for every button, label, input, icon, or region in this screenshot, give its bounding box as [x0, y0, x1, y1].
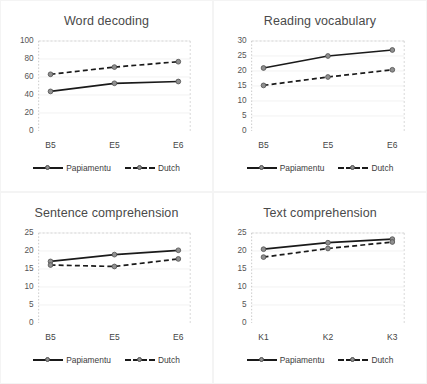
y-axis-tick-label: 20	[238, 246, 248, 255]
y-axis-tick-label: 10	[25, 282, 35, 291]
x-axis-tick-label: K2	[323, 332, 334, 342]
y-axis-tick-label: 20	[25, 108, 35, 117]
data-point-marker	[176, 248, 181, 253]
data-point-marker	[176, 79, 181, 84]
chart-panel-reading-vocabulary: Reading vocabulary 051015202530B5E5E6 Pa…	[213, 0, 427, 192]
data-point-marker	[261, 83, 266, 88]
chart-title: Reading vocabulary	[214, 14, 426, 28]
data-point-marker	[261, 247, 266, 252]
data-point-marker	[112, 81, 117, 86]
y-axis-tick-label: 5	[242, 300, 247, 309]
y-axis-tick-label: 60	[25, 72, 35, 81]
legend-line-dashed-icon	[125, 356, 155, 365]
y-axis-tick-label: 80	[25, 54, 35, 63]
data-point-marker	[48, 263, 53, 268]
y-axis-tick-label: 20	[238, 66, 248, 75]
legend-line-dashed-icon	[338, 356, 368, 365]
plot-area: 020406080100B5E5E6	[1, 35, 212, 157]
data-point-marker	[176, 257, 181, 262]
legend-item-dutch: Dutch	[338, 163, 393, 173]
x-axis-tick-label: B5	[258, 140, 269, 150]
legend-label-dutch: Dutch	[158, 163, 180, 173]
x-axis-tick-label: E6	[173, 332, 184, 342]
plot-area: 0510152025K1K2K3	[214, 227, 426, 349]
legend-label-papiamentu: Papiamentu	[66, 163, 111, 173]
legend-label-papiamentu: Papiamentu	[280, 355, 325, 365]
data-point-marker	[112, 264, 117, 269]
legend-line-solid-icon	[247, 356, 277, 365]
legend-line-dashed-icon	[338, 164, 368, 173]
y-axis-tick-label: 15	[238, 81, 248, 90]
y-axis-tick-label: 20	[25, 246, 35, 255]
plot-svg: 051015202530B5E5E6	[214, 35, 426, 157]
y-axis-tick-label: 0	[29, 318, 34, 327]
plot-svg: 0510152025K1K2K3	[214, 227, 426, 349]
legend-label-dutch: Dutch	[158, 355, 180, 365]
legend-line-solid-icon	[247, 164, 277, 173]
y-axis-tick-label: 25	[25, 228, 35, 237]
legend-item-dutch: Dutch	[125, 163, 180, 173]
x-axis-tick-label: K3	[387, 332, 398, 342]
x-axis-tick-label: E6	[173, 140, 184, 150]
chart-legend: Papiamentu Dutch	[1, 163, 212, 173]
legend-item-dutch: Dutch	[338, 355, 393, 365]
data-point-marker	[112, 252, 117, 257]
data-point-marker	[326, 54, 331, 59]
data-point-marker	[326, 246, 331, 251]
y-axis-tick-label: 25	[238, 228, 248, 237]
y-axis-tick-label: 0	[29, 126, 34, 135]
x-axis-tick-label: B5	[45, 332, 56, 342]
legend-item-papiamentu: Papiamentu	[33, 163, 111, 173]
y-axis-tick-label: 30	[238, 36, 248, 45]
legend-line-dashed-icon	[125, 164, 155, 173]
y-axis-tick-label: 10	[238, 96, 248, 105]
y-axis-tick-label: 40	[25, 90, 35, 99]
y-axis-tick-label: 10	[238, 282, 248, 291]
legend-label-dutch: Dutch	[371, 163, 393, 173]
data-point-marker	[48, 72, 53, 77]
legend-item-papiamentu: Papiamentu	[33, 355, 111, 365]
y-axis-tick-label: 100	[20, 36, 34, 45]
y-axis-tick-label: 5	[242, 111, 247, 120]
chart-title: Sentence comprehension	[1, 206, 212, 220]
plot-area: 051015202530B5E5E6	[214, 35, 426, 157]
y-axis-tick-label: 15	[25, 264, 35, 273]
legend-line-solid-icon	[33, 164, 63, 173]
chart-panel-sentence-comprehension: Sentence comprehension 0510152025B5E5E6 …	[0, 192, 213, 384]
data-point-marker	[176, 59, 181, 64]
legend-item-papiamentu: Papiamentu	[247, 355, 325, 365]
legend-item-papiamentu: Papiamentu	[247, 163, 325, 173]
legend-item-dutch: Dutch	[125, 355, 180, 365]
x-axis-tick-label: K1	[258, 332, 269, 342]
legend-label-papiamentu: Papiamentu	[66, 355, 111, 365]
legend-line-solid-icon	[33, 356, 63, 365]
data-point-marker	[390, 240, 395, 245]
plot-svg: 020406080100B5E5E6	[1, 35, 212, 157]
data-point-marker	[261, 255, 266, 260]
chart-legend: Papiamentu Dutch	[1, 355, 212, 365]
chart-legend: Papiamentu Dutch	[214, 355, 426, 365]
x-axis-tick-label: E6	[387, 140, 398, 150]
y-axis-tick-label: 0	[242, 126, 247, 135]
x-axis-tick-label: E5	[109, 140, 120, 150]
plot-svg: 0510152025B5E5E6	[1, 227, 212, 349]
legend-label-dutch: Dutch	[371, 355, 393, 365]
series-line-papiamentu	[264, 50, 393, 68]
chart-legend: Papiamentu Dutch	[214, 163, 426, 173]
x-axis-tick-label: E5	[323, 140, 334, 150]
data-point-marker	[48, 89, 53, 94]
x-axis-tick-label: B5	[45, 140, 56, 150]
data-point-marker	[390, 67, 395, 72]
data-point-marker	[326, 75, 331, 80]
chart-title: Text comprehension	[214, 206, 426, 220]
figure-grid: Word decoding 020406080100B5E5E6 Papiame…	[0, 0, 427, 384]
data-point-marker	[390, 48, 395, 53]
y-axis-tick-label: 15	[238, 264, 248, 273]
data-point-marker	[326, 240, 331, 245]
legend-label-papiamentu: Papiamentu	[280, 163, 325, 173]
chart-panel-text-comprehension: Text comprehension 0510152025K1K2K3 Papi…	[213, 192, 427, 384]
data-point-marker	[261, 66, 266, 71]
y-axis-tick-label: 25	[238, 51, 248, 60]
chart-title: Word decoding	[1, 14, 212, 28]
data-point-marker	[112, 65, 117, 70]
